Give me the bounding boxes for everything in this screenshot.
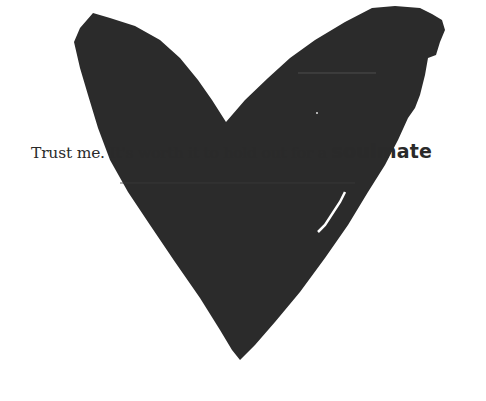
caption-emphasis: soulmate	[332, 140, 433, 162]
caption-lead: Trust me. It's worth it to hold out for …	[31, 144, 332, 162]
caption: Trust me. It's worth it to hold out for …	[31, 140, 432, 162]
heart-icon	[0, 0, 486, 401]
speck	[316, 112, 318, 114]
